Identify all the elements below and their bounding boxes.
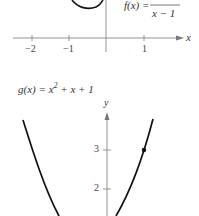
g-label-base: g(x) = x bbox=[18, 83, 54, 95]
tick-label-2: 2 bbox=[94, 182, 99, 193]
tick-label-1: 1 bbox=[142, 43, 147, 54]
tick-label-neg1: −1 bbox=[63, 43, 74, 54]
f-curve bbox=[72, 0, 103, 8]
g-curve-right bbox=[116, 119, 153, 216]
graphs-canvas bbox=[0, 0, 199, 216]
y-axis-label: y bbox=[104, 97, 108, 108]
g-curve bbox=[23, 120, 59, 216]
x-axis-label: x bbox=[186, 31, 191, 43]
point-1-3 bbox=[142, 148, 146, 152]
tick-label-neg2: −2 bbox=[25, 43, 36, 54]
bottom-graph bbox=[23, 112, 153, 216]
g-label-rest: + x + 1 bbox=[58, 83, 94, 95]
y-axis-arrow-icon bbox=[105, 112, 110, 120]
f-label: f(x) = bbox=[124, 0, 149, 11]
g-label: g(x) = x2 + x + 1 bbox=[18, 81, 94, 95]
tick-label-3: 3 bbox=[94, 143, 99, 154]
f-denominator: x − 1 bbox=[152, 7, 175, 19]
x-axis-arrow-icon bbox=[176, 36, 184, 41]
